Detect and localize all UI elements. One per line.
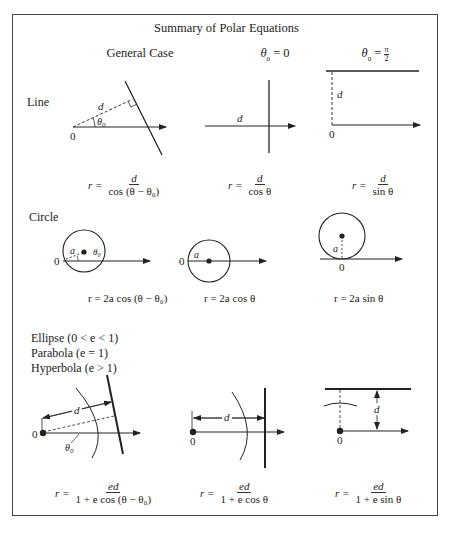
svg-text:d: d — [337, 88, 343, 100]
equation-line-theta0-zero: r = dcos θ — [228, 172, 273, 198]
svg-text:a: a — [333, 243, 338, 254]
line-theta0-halfpi-diagram: d 0 — [326, 71, 420, 140]
svg-text:0: 0 — [339, 261, 345, 273]
conic-theta0-halfpi-diagram: d 0 — [324, 389, 411, 446]
svg-text:θ0: θ0 — [65, 442, 74, 455]
circle-theta0-halfpi-diagram: a 0 — [319, 213, 402, 273]
svg-text:d: d — [224, 411, 230, 423]
equation-circle-theta0-zero: r = 2a cos θ — [204, 292, 255, 304]
svg-text:a: a — [194, 249, 199, 260]
equation-conic-general: r = ed1 + e cos (θ − θ₀) — [55, 480, 153, 506]
equation-circle-theta0-halfpi: r = 2a sin θ — [334, 292, 383, 304]
svg-text:θ0: θ0 — [93, 247, 100, 258]
equation-circle-general: r = 2a cos (θ − θ₀) — [88, 292, 167, 304]
svg-text:0: 0 — [190, 435, 196, 447]
svg-text:d: d — [237, 112, 243, 124]
line-general-diagram: 0 d θ0 — [70, 81, 166, 155]
equation-line-theta0-halfpi: r = dsin θ — [352, 172, 395, 198]
svg-text:a: a — [70, 245, 75, 256]
equation-line-general: r = dcos (θ − θ₀) — [88, 172, 161, 198]
svg-text:0: 0 — [70, 130, 76, 142]
equation-conic-theta0-zero: r = ed1 + e cos θ — [200, 480, 270, 506]
equation-conic-theta0-halfpi: r = ed1 + e sin θ — [335, 480, 403, 506]
conic-theta0-zero-diagram: d 0 — [190, 388, 284, 468]
svg-text:0: 0 — [54, 255, 60, 267]
diagrams: 0 d θ0 d d 0 0 a θ0 0 a — [0, 0, 453, 537]
svg-text:d: d — [74, 404, 80, 416]
svg-text:d: d — [374, 403, 380, 415]
svg-text:0: 0 — [32, 428, 38, 440]
svg-text:0: 0 — [179, 255, 185, 267]
circle-theta0-zero-diagram: 0 a — [179, 240, 266, 282]
svg-text:0: 0 — [329, 128, 335, 140]
conic-general-diagram: d 0 θ0 — [32, 375, 140, 458]
line-theta0-zero-diagram: d — [205, 80, 295, 153]
svg-text:0: 0 — [337, 434, 343, 446]
circle-general-diagram: 0 a θ0 — [54, 230, 150, 272]
svg-text:d: d — [98, 100, 104, 112]
